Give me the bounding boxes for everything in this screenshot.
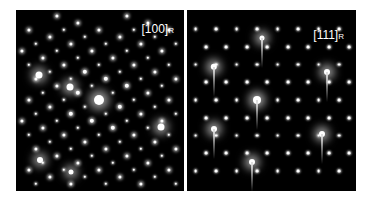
diffraction-spot (139, 42, 142, 45)
diffraction-spot (175, 43, 177, 45)
diffraction-spot (49, 141, 51, 143)
diffraction-spot (41, 56, 44, 59)
diffraction-spot (84, 176, 86, 178)
diffraction-spot (348, 152, 351, 155)
diffraction-spot (338, 170, 341, 173)
diffraction-spot (55, 84, 58, 87)
diffraction-spot (104, 77, 108, 81)
streak (213, 129, 215, 159)
diffraction-spot (256, 134, 259, 137)
diffraction-spot (175, 183, 177, 185)
diffraction-spot (256, 170, 259, 173)
diffraction-spot (48, 105, 51, 108)
diffraction-spot (147, 57, 149, 59)
diffraction-spot (338, 134, 341, 137)
diffraction-spot (83, 140, 86, 143)
diffraction-spot (225, 116, 228, 119)
diffraction-spot (153, 140, 156, 143)
diffraction-spot (76, 91, 80, 95)
diffraction-spot (146, 161, 149, 164)
diffraction-spot (63, 29, 65, 31)
diffraction-spot (105, 43, 107, 45)
label-sub: R (338, 32, 344, 41)
diffraction-spot (98, 64, 100, 66)
diffraction-spot (83, 70, 87, 74)
diffraction-spot (62, 63, 65, 66)
diffraction-panel-111: [111]R (187, 10, 356, 191)
diffraction-spot (48, 35, 51, 38)
diffraction-spot (266, 45, 269, 48)
diffraction-spot (286, 152, 289, 155)
diffraction-spot (307, 45, 310, 48)
diffraction-spot (42, 162, 44, 164)
diffraction-spot (338, 63, 341, 66)
diffraction-spot (215, 99, 218, 102)
diffraction-spot (63, 169, 65, 171)
diffraction-spot (28, 64, 30, 66)
diffraction-spot (41, 126, 44, 129)
diffraction-spot (111, 56, 114, 59)
diffraction-spot (56, 50, 58, 52)
diffraction-spot (204, 152, 207, 155)
diffraction-spot (132, 63, 135, 66)
diffraction-spot (34, 147, 37, 150)
diffraction-spot (225, 81, 228, 84)
diffraction-spot (69, 182, 72, 185)
diffraction-spot (62, 133, 65, 136)
diffraction-spot (215, 134, 218, 137)
label-main: [100] (142, 22, 169, 36)
diffraction-spot (55, 14, 58, 17)
streak (251, 162, 253, 191)
diffraction-spot (76, 161, 79, 164)
diffraction-spot (70, 148, 72, 150)
diffraction-spot (297, 99, 300, 102)
diffraction-spot (338, 28, 341, 31)
diffraction-spot (194, 63, 197, 66)
diffraction-spot (112, 162, 114, 164)
diffraction-spot (126, 120, 128, 122)
diffraction-spot (35, 43, 37, 45)
diffraction-spot (307, 116, 310, 119)
diffraction-spot (125, 84, 129, 88)
diffraction-spot (105, 183, 107, 185)
diffraction-spot (174, 77, 177, 80)
diffraction-spot (317, 99, 320, 102)
diffraction-spot (133, 29, 135, 31)
diffraction-spot (91, 85, 93, 87)
diffraction-spot (276, 28, 279, 31)
diffraction-spot (77, 57, 79, 59)
diffraction-spot (276, 63, 279, 66)
diffraction-spot (97, 168, 100, 171)
diffraction-spot (167, 98, 170, 101)
diffraction-spot (256, 28, 259, 31)
streak (321, 134, 323, 164)
diffraction-spot (204, 116, 207, 119)
diffraction-spot (119, 141, 121, 143)
diffraction-spot (146, 91, 149, 94)
diffraction-spot (119, 71, 121, 73)
diffraction-spot (245, 45, 248, 48)
diffraction-spot (168, 134, 170, 136)
diffraction-spot (276, 99, 279, 102)
diffraction-spot (35, 183, 37, 185)
diffraction-spot (139, 182, 142, 185)
diffraction-spot (147, 127, 149, 129)
diffraction-spot (338, 99, 341, 102)
diffraction-spot (348, 81, 351, 84)
diffraction-spot (126, 50, 128, 52)
diffraction-spot (307, 81, 310, 84)
diffraction-spot (245, 116, 248, 119)
diffraction-spot (69, 42, 72, 45)
diffraction-spot (317, 170, 320, 173)
diffraction-spot (105, 113, 107, 115)
diffraction-spot (55, 154, 58, 157)
diffraction-spot (63, 99, 65, 101)
diffraction-spot (225, 45, 228, 48)
diffraction-spot (132, 133, 135, 136)
diffraction-spot (204, 45, 207, 48)
diffraction-spot (42, 92, 44, 94)
diffraction-spot (348, 116, 351, 119)
diffraction-spot (69, 112, 73, 116)
diffraction-spot (140, 148, 142, 150)
diffraction-spot (161, 155, 163, 157)
